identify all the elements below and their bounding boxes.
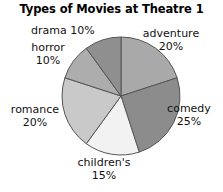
slice-label-comedy: comedy 25% [160,103,218,128]
slice-label-childrens-name: children's [66,157,142,170]
slice-label-childrens: children's 15% [66,157,142,182]
slice-label-romance-value: 20% [2,117,68,130]
slice-label-comedy-value: 25% [160,116,218,129]
slice-label-drama: drama 10% [31,25,95,38]
slice-label-adventure-value: 20% [134,41,208,54]
slice-label-adventure-name: adventure [134,28,208,41]
slice-label-childrens-value: 15% [66,170,142,183]
slice-label-horror-value: 10% [22,55,74,68]
slice-label-comedy-name: comedy [160,103,218,116]
slice-label-adventure: adventure 20% [134,28,208,53]
slice-label-romance: romance 20% [2,104,68,129]
slice-label-drama-text: drama 10% [31,25,95,38]
pie-slices-group [62,37,180,155]
slice-label-romance-name: romance [2,104,68,117]
slice-label-horror: horror 10% [22,42,74,67]
pie-chart-figure: Types of Movies at Theatre 1 drama 10% h… [0,0,223,192]
slice-label-horror-name: horror [22,42,74,55]
